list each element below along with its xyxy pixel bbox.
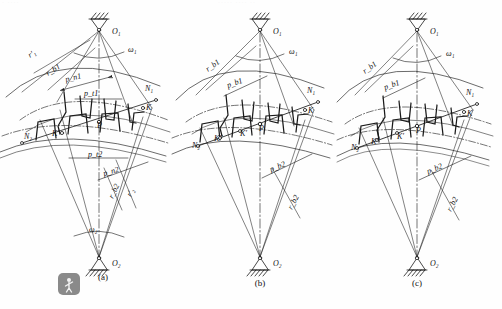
label-pb1-c: p_b1 [382,78,401,92]
support-top-c [407,13,427,30]
label-rb2-b: r_b2 [286,193,301,211]
panel-c: O₁ ω₁ r_b1 p_b1 N₁ K P K′ K″ N₂ p_b2 r_b… [337,0,502,309]
label-o2-a: O₂ [112,259,121,268]
support-top-b [250,13,270,30]
caption-a: (a) [83,272,123,282]
label-omega1-a: ω₁ [128,45,137,54]
label-omega2-a: ω₂ [89,225,98,234]
addendum-circle-1-c [351,120,493,136]
label-rprime2-a: r′₂ [125,187,137,198]
dim-rb2-c [431,170,459,220]
label-pt1-a: p_t1 [83,89,98,98]
label-rprime1-a: r′₁ [26,48,37,60]
label-rb1-b: r_b1 [204,57,222,73]
label-pb2-b: p_b2 [267,160,286,175]
label-n2-c: N₂ [350,143,359,152]
label-k-a: K [145,103,152,112]
watermark-badge [58,273,80,295]
radial-lines-o2-b [200,110,314,257]
label-kprime-b: K′ [239,129,247,138]
panel-a: O₁ ω₁ r′₁ r_b1 p_n1 p_t1 N₁ K P K′ N₂ p_… [0,0,172,309]
label-pn2-a: p_n2 [101,165,120,178]
label-o1-b: O₁ [273,27,282,36]
label-n2-a: N₂ [23,132,32,141]
label-o2-b: O₂ [273,259,282,268]
base-circle-2-c [337,143,489,160]
label-k-b: K [307,106,314,115]
base-circle-2-a [0,139,166,156]
label-pn1-a: p_n1 [63,71,82,84]
label-p-b: P [258,124,264,133]
label-kprime-a: K′ [51,129,59,138]
label-rb2-a: r_b2 [107,182,122,200]
label-k-c: K [466,109,473,118]
label-n1-a: N₁ [144,84,153,93]
caption-c: (c) [397,278,437,288]
panel-b: O₁ ω₁ r_b1 p_b1 N₁ K P K′ K″ N₂ p_b2 r_b… [172,0,337,309]
support-bottom-c [404,258,427,276]
label-o2-c: O₂ [430,259,439,268]
figure-canvas: · ···· ····· ···· ·· [0,0,502,309]
label-kprime-c: K′ [396,132,404,141]
support-bottom-b [247,258,270,276]
root-circle-2-c [337,149,489,166]
label-kdprime-c: K″ [370,137,380,146]
label-n2-b: N₂ [191,141,200,150]
label-kdprime-b: K″ [213,134,223,143]
base-circle-1-c [337,71,483,102]
label-n1-c: N₁ [465,88,474,97]
dim-rb2-b [272,168,300,218]
label-rb2-c: r_b2 [445,195,460,213]
support-top-a [89,13,109,30]
label-o1-a: O₁ [112,27,121,36]
root-circle-2-a [0,145,166,162]
base-circle-1-a [6,68,160,97]
caption-b: (b) [240,278,280,288]
label-p-c: P [415,126,421,135]
base-circle-1-b [176,71,324,100]
label-o1-c: O₁ [430,27,439,36]
label-rb1-a: r_b1 [44,62,62,78]
label-p-a: P [96,121,102,130]
label-pb2-c: p_b2 [424,162,443,177]
label-omega1-b: ω₁ [289,47,298,56]
label-pt2-a: p_t2 [87,150,102,159]
label-omega1-c: ω₁ [446,49,455,58]
label-n1-b: N₁ [306,86,315,95]
